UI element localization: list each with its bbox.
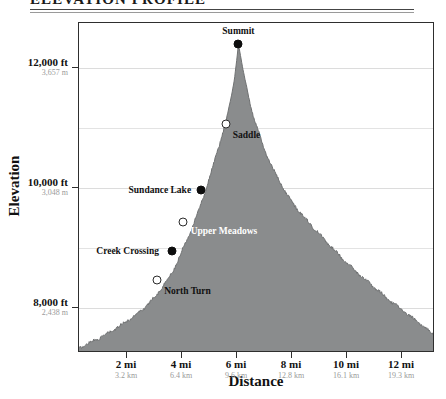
- x-tick-sublabel: 6.4 km: [170, 371, 192, 381]
- waypoint-marker[interactable]: [197, 186, 206, 195]
- y-axis-tick: 12,000 ft3,657 m: [28, 56, 68, 78]
- waypoint-label: Creek Crossing: [96, 246, 159, 256]
- waypoint-label: Sundance Lake: [129, 185, 192, 195]
- x-tick-mark: [126, 352, 127, 358]
- y-tick-label: 12,000 ft: [28, 56, 68, 68]
- waypoint-marker[interactable]: [167, 247, 176, 256]
- waypoint-label: Saddle: [233, 130, 260, 140]
- x-tick-sublabel: 9.6 km: [225, 371, 247, 381]
- x-tick-sublabel: 16.1 km: [333, 371, 359, 381]
- x-tick-sublabel: 12.8 km: [278, 371, 304, 381]
- waypoint-label: Summit: [222, 26, 254, 36]
- waypoint-marker[interactable]: [221, 120, 230, 129]
- x-axis-tick: 4 mi6.4 km: [170, 358, 192, 381]
- y-tick-label: 8,000 ft: [33, 296, 68, 308]
- x-tick-mark: [346, 352, 347, 358]
- title-divider-secondary: [30, 12, 414, 13]
- x-axis-tick: 8 mi12.8 km: [278, 358, 304, 381]
- waypoint-label: North Turn: [164, 286, 211, 296]
- y-tick-label: 10,000 ft: [28, 176, 68, 188]
- x-tick-label: 4 mi: [170, 358, 192, 371]
- x-tick-sublabel: 3.2 km: [115, 371, 137, 381]
- x-tick-mark: [291, 352, 292, 358]
- x-tick-mark: [401, 352, 402, 358]
- x-tick-label: 8 mi: [278, 358, 304, 371]
- y-axis-tick: 10,000 ft3,048 m: [28, 176, 68, 198]
- x-axis-tick: 12 mi19.3 km: [388, 358, 414, 381]
- x-tick-label: 2 mi: [115, 358, 137, 371]
- waypoint-marker[interactable]: [179, 218, 188, 227]
- waypoint-marker[interactable]: [234, 40, 243, 49]
- y-tick-sublabel: 2,438 m: [33, 308, 68, 318]
- x-axis-tick: 10 mi16.1 km: [333, 358, 359, 381]
- elevation-profile-page: ELEVATION PROFILE Elevation Distance 12,…: [0, 0, 446, 399]
- x-tick-sublabel: 19.3 km: [388, 371, 414, 381]
- x-tick-mark: [181, 352, 182, 358]
- x-tick-label: 6 mi: [225, 358, 247, 371]
- waypoint-marker[interactable]: [152, 275, 161, 284]
- y-tick-sublabel: 3,048 m: [28, 188, 68, 198]
- x-tick-label: 10 mi: [333, 358, 359, 371]
- title-divider: [30, 9, 414, 10]
- x-tick-label: 12 mi: [388, 358, 414, 371]
- x-axis-tick: 2 mi3.2 km: [115, 358, 137, 381]
- y-tick-sublabel: 3,657 m: [28, 68, 68, 78]
- y-axis-title: Elevation: [6, 156, 23, 217]
- x-axis-tick: 6 mi9.6 km: [225, 358, 247, 381]
- waypoint-label: Upper Meadows: [191, 226, 258, 236]
- y-axis-tick: 8,000 ft2,438 m: [33, 296, 68, 318]
- terrain-silhouette: [79, 45, 434, 352]
- page-title: ELEVATION PROFILE: [30, 0, 206, 8]
- x-tick-mark: [236, 352, 237, 358]
- plot-area: SummitSaddleSundance LakeUpper MeadowsCr…: [78, 22, 434, 352]
